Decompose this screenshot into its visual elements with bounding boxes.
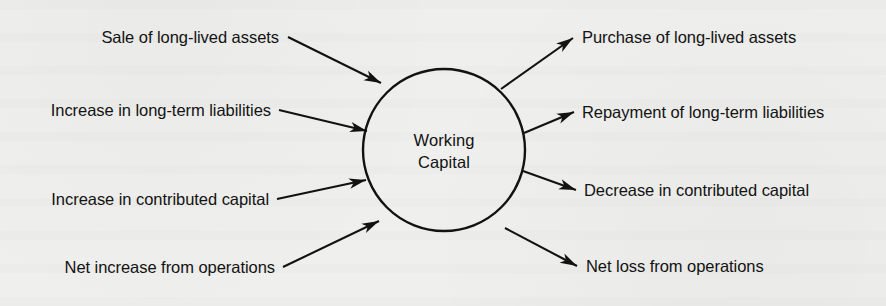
center-node-circle	[363, 69, 525, 231]
inflow-label-sale-of-long-lived-assets: Sale of long-lived assets	[101, 28, 279, 46]
inflow-label-increase-in-contributed-capital: Increase in contributed capital	[51, 190, 269, 208]
outflow-label-repayment-of-long-term-liabilities: Repayment of long-term liabilities	[582, 103, 824, 121]
outflow-label-decrease-in-contributed-capital: Decrease in contributed capital	[584, 181, 809, 199]
inflow-label-net-increase-from-operations: Net increase from operations	[65, 258, 275, 276]
diagram-page: Sale of long-lived assets Increase in lo…	[0, 0, 886, 306]
inflow-label-increase-in-long-term-liabilities: Increase in long-term liabilities	[51, 101, 271, 119]
inflow-edge-sale-of-long-lived-assets	[288, 37, 383, 88]
outflow-edge-repayment-of-long-term-liabilities	[524, 107, 576, 133]
outflow-edge-purchase-of-long-lived-assets	[501, 34, 576, 89]
inflow-edge-net-increase-from-operations	[283, 216, 381, 267]
outflow-edge-decrease-in-contributed-capital	[523, 171, 578, 195]
outflow-edge-net-loss-from-operations	[505, 228, 579, 271]
outflow-label-net-loss-from-operations: Net loss from operations	[586, 257, 764, 275]
outflow-label-purchase-of-long-lived-assets: Purchase of long-lived assets	[582, 28, 796, 46]
inflow-edge-increase-in-contributed-capital	[277, 175, 367, 199]
working-capital-diagram: Sale of long-lived assets Increase in lo…	[0, 0, 886, 306]
inflow-edge-increase-in-long-term-liabilities	[279, 110, 368, 136]
center-node-label-line2: Capital	[418, 153, 470, 171]
center-node-label-line1: Working	[414, 131, 475, 149]
